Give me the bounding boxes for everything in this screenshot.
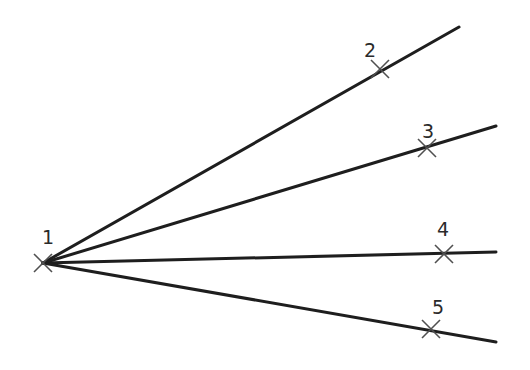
label-point-1: 1 [42,226,54,248]
ray-1-5 [43,263,496,342]
point-labels: 1 2 3 4 5 [42,39,449,318]
ray-1-2 [43,27,459,263]
rays [43,27,496,342]
label-point-4: 4 [437,218,449,240]
label-point-2: 2 [364,39,376,61]
ray-1-4 [43,252,496,263]
point-markers [34,60,453,338]
ray-diagram: 1 2 3 4 5 [0,0,530,370]
label-point-3: 3 [422,120,434,142]
label-point-5: 5 [432,296,444,318]
